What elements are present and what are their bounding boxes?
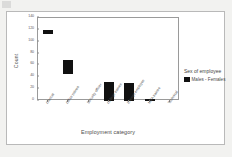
- y-tick-label: 80: [30, 51, 34, 55]
- chart-panel: 020406080100120140 Count Employment cate…: [6, 11, 225, 145]
- legend-swatch: [184, 77, 190, 82]
- page-corner-artifact: [2, 1, 11, 8]
- legend-entries: Males - Females: [184, 77, 232, 82]
- x-axis-title: Employment category: [37, 129, 179, 135]
- y-tick-label: 20: [30, 86, 34, 90]
- y-tick-mark: [37, 64, 39, 65]
- y-tick-label: 40: [30, 74, 34, 78]
- y-tick-label: 120: [28, 27, 34, 31]
- y-tick-label: 100: [28, 39, 34, 43]
- y-tick-label: 60: [30, 63, 34, 67]
- legend-label: Males - Females: [192, 77, 226, 82]
- y-axis: 020406080100120140: [19, 17, 36, 100]
- y-tick-label: 140: [28, 15, 34, 19]
- legend: Sex of employee Males - Females: [184, 68, 232, 82]
- bar: [63, 60, 73, 75]
- y-tick-mark: [37, 88, 39, 89]
- y-tick-mark: [37, 40, 39, 41]
- y-tick-mark: [37, 100, 39, 101]
- y-tick-label: 0: [32, 98, 34, 102]
- legend-title: Sex of employee: [184, 68, 232, 74]
- legend-entry: Males - Females: [184, 77, 232, 82]
- y-tick-mark: [37, 17, 39, 18]
- y-axis-title: Count: [13, 38, 19, 84]
- chart-page: 020406080100120140 Count Employment cate…: [0, 0, 232, 157]
- y-tick-mark: [37, 52, 39, 53]
- y-tick-mark: [37, 28, 39, 29]
- bar: [43, 30, 53, 34]
- y-tick-mark: [37, 76, 39, 77]
